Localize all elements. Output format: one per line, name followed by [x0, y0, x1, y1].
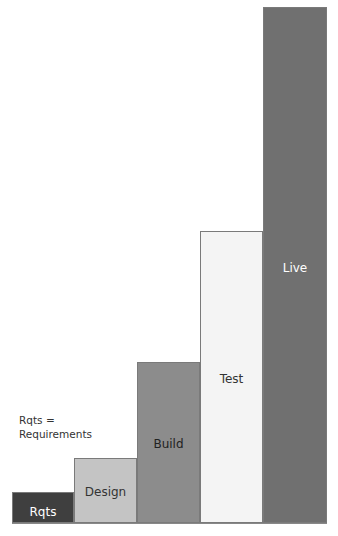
- bar-live: Live: [263, 7, 327, 523]
- bar-label: Test: [201, 372, 262, 386]
- bar-label: Design: [75, 485, 136, 499]
- bar-label: Rqts: [13, 505, 73, 519]
- note-line-2: Requirements: [19, 427, 92, 441]
- bar-test: Test: [200, 231, 263, 523]
- baseline: [12, 523, 327, 524]
- bar-label: Build: [138, 437, 199, 451]
- legend-note: Rqts = Requirements: [19, 413, 92, 441]
- bar-design: Design: [74, 458, 137, 523]
- bar-build: Build: [137, 362, 200, 523]
- note-line-1: Rqts =: [19, 413, 92, 427]
- bar-rqts: Rqts: [12, 492, 74, 523]
- bar-label: Live: [264, 261, 326, 275]
